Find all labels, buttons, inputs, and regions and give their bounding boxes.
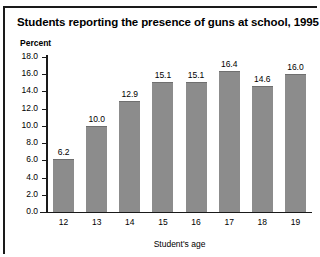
y-tick-label: 6.0	[26, 154, 38, 164]
x-tick-label: 19	[291, 217, 300, 227]
bar[interactable]	[86, 126, 107, 212]
bar[interactable]	[219, 71, 240, 212]
y-axis-label: Percent	[20, 38, 51, 48]
y-tick-label: 0.0	[26, 206, 38, 216]
x-tick-label: 12	[59, 217, 68, 227]
top-rule	[3, 6, 317, 8]
y-tick-label: 4.0	[26, 172, 38, 182]
y-axis-tick: 10.0	[0, 126, 47, 127]
x-tick-label: 16	[191, 217, 200, 227]
bar-value-label: 14.6	[254, 74, 271, 84]
chart-title: Students reporting the presence of guns …	[17, 16, 319, 28]
bar-value-label: 12.9	[122, 89, 139, 99]
chart-figure: Students reporting the presence of guns …	[0, 0, 320, 257]
bar-group: 12.914	[113, 57, 146, 212]
bar[interactable]	[285, 74, 306, 212]
bar-value-label: 15.1	[188, 70, 205, 80]
y-axis-tick: 8.0	[0, 143, 47, 144]
bar-group: 14.618	[246, 57, 279, 212]
bar[interactable]	[152, 82, 173, 212]
y-tick-label: 8.0	[26, 137, 38, 147]
y-tick-label: 18.0	[21, 51, 38, 61]
x-tick-label: 15	[158, 217, 167, 227]
y-tick-mark	[40, 212, 53, 213]
y-axis-tick: 18.0	[0, 57, 47, 58]
bar[interactable]	[186, 82, 207, 212]
y-axis-tick: 0.0	[0, 212, 47, 213]
bar-group: 10.013	[80, 57, 113, 212]
plot-area: 6.21210.01312.91415.11515.11616.41714.61…	[47, 57, 312, 212]
y-axis-tick: 12.0	[0, 109, 47, 110]
bar-value-label: 16.4	[221, 59, 238, 69]
bar-group: 16.417	[213, 57, 246, 212]
x-tick-label: 13	[92, 217, 101, 227]
y-tick-label: 14.0	[21, 85, 38, 95]
y-tick-label: 10.0	[21, 120, 38, 130]
bar-group: 15.116	[180, 57, 213, 212]
y-tick-label: 12.0	[21, 103, 38, 113]
y-axis-tick: 16.0	[0, 74, 47, 75]
x-tick-label: 18	[258, 217, 267, 227]
x-tick-label: 14	[125, 217, 134, 227]
y-axis-tick: 4.0	[0, 178, 47, 179]
bar[interactable]	[252, 86, 273, 212]
bar-group: 16.019	[279, 57, 312, 212]
bar-group: 15.115	[146, 57, 179, 212]
bar-group: 6.212	[47, 57, 80, 212]
bar-value-label: 16.0	[287, 62, 304, 72]
y-axis-tick: 6.0	[0, 160, 47, 161]
bar-value-label: 6.2	[58, 147, 70, 157]
bar[interactable]	[53, 159, 74, 212]
x-axis-label: Student's age	[47, 239, 312, 249]
y-tick-label: 16.0	[21, 68, 38, 78]
bar-value-label: 10.0	[88, 114, 105, 124]
x-tick-label: 17	[224, 217, 233, 227]
y-tick-label: 2.0	[26, 189, 38, 199]
bar[interactable]	[119, 101, 140, 212]
bar-value-label: 15.1	[155, 70, 172, 80]
y-axis-tick: 2.0	[0, 195, 47, 196]
y-axis-tick: 14.0	[0, 91, 47, 92]
left-rule	[3, 6, 5, 254]
